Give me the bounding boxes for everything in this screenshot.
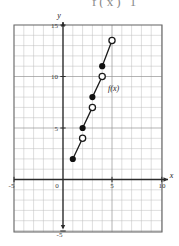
closed-point-3: [89, 94, 95, 100]
closed-point-1: [70, 156, 76, 162]
open-point-2: [89, 104, 95, 110]
closed-point-4: [99, 63, 105, 69]
open-point-3: [99, 73, 105, 79]
closed-point-2: [80, 125, 86, 131]
x-axis-label: x: [169, 171, 174, 180]
y-tick-label-neg5: -5: [57, 231, 63, 239]
y-axis-label: y: [56, 11, 61, 20]
graph-figure: f(x) 1: [0, 0, 179, 246]
y-tick-label-10: 10: [51, 73, 59, 81]
y-axis-arrow: [61, 22, 65, 27]
open-point-1: [80, 135, 86, 141]
x-tick-label-10: 10: [159, 182, 167, 190]
open-point-4: [109, 37, 115, 43]
x-tick-label-neg5: -5: [9, 182, 15, 190]
y-tick-label-5: 5: [55, 125, 59, 133]
y-tick-label-15: 15: [51, 22, 59, 30]
x-tick-label-0: 0: [55, 182, 59, 190]
function-label: f(x): [108, 84, 119, 93]
x-tick-label-5: 5: [110, 182, 114, 190]
coordinate-plane: -5 0 5 10 15 10 5 -5 x y: [0, 0, 179, 246]
